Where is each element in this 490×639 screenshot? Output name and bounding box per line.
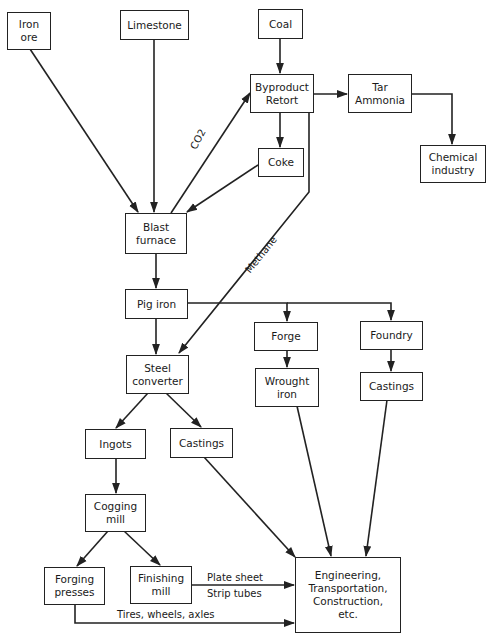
node-cogging-mill: Cogging mill [85,494,146,532]
node-coke: Coke [258,148,304,177]
edge-tar-chemical [411,94,452,144]
node-blast-furnace: Blast furnace [125,213,187,254]
node-forging-presses: Forging presses [44,567,105,605]
edge-pig-forge [187,303,287,321]
label-plate-sheet: Plate sheet [207,572,263,584]
node-byproduct-retort: Byproduct Retort [250,74,314,113]
node-iron-ore: Iron ore [7,12,51,50]
node-end-uses: Engineering, Transportation, Constructio… [295,557,401,633]
node-pig-iron: Pig iron [125,289,188,319]
edge-co2 [171,93,250,213]
edge-steel-ingots [116,393,148,428]
edge-wrought-enduses [297,406,331,556]
edge-castings-enduses [204,457,295,557]
edge-castings2-enduses [366,400,387,556]
node-forge: Forge [254,322,318,351]
node-castings-converter: Castings [170,428,233,458]
node-ingots: Ingots [85,429,146,459]
node-wrought-iron: Wrought iron [255,368,319,407]
node-tar-ammonia: Tar Ammonia [348,74,412,113]
node-limestone: Limestone [120,10,189,40]
flow-edges [0,0,490,639]
edge-ironore-blastfurnace [30,49,138,212]
node-chemical-industry: Chemical industry [420,145,486,183]
label-tires-wheels-axles: Tires, wheels, axles [117,609,215,621]
edge-pig-foundry [287,303,391,320]
edge-steel-castings [166,393,201,427]
label-strip-tubes: Strip tubes [207,588,262,600]
edge-cogging-finishing [124,531,160,565]
node-castings-foundry: Castings [360,372,423,401]
edge-cogging-forging [77,531,108,566]
node-steel-converter: Steel converter [126,355,189,394]
node-coal: Coal [258,9,303,39]
node-finishing-mill: Finishing mill [130,566,192,604]
node-foundry: Foundry [360,321,423,350]
